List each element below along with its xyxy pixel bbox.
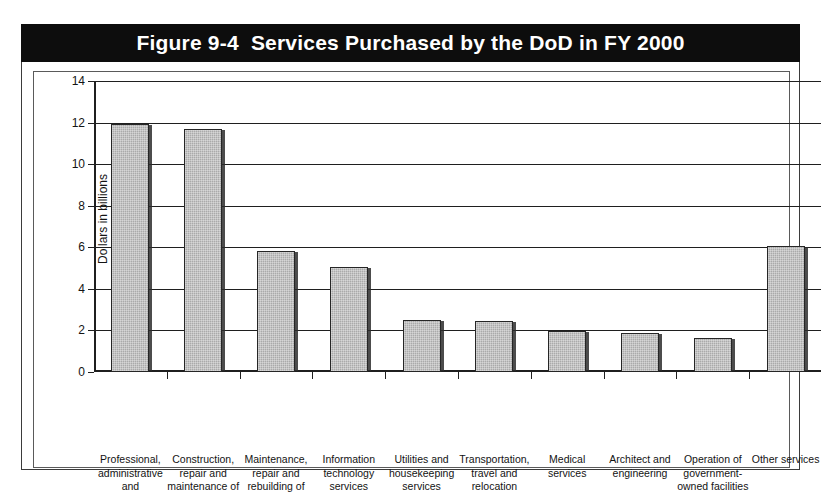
x-axis-tick [458, 372, 459, 379]
x-axis-category-label: Operation ofgovernment-owned facilities [676, 453, 749, 493]
y-axis-tick [88, 289, 94, 290]
bar [621, 333, 659, 372]
x-axis-tick [240, 372, 241, 379]
bar [330, 267, 368, 372]
category-label-line: repair and [167, 467, 240, 481]
y-axis-tick-label: 2 [78, 323, 85, 337]
gridline [94, 81, 821, 82]
x-axis-category-label: Architect andengineering [604, 453, 677, 480]
plot-panel: Dollars in billions 02468101214 Professi… [33, 71, 790, 468]
bar [475, 321, 513, 372]
category-label-line: engineering [604, 467, 677, 481]
category-label-line: owned facilities [676, 480, 749, 493]
x-axis-tick [749, 372, 750, 379]
category-label-line: housekeeping [385, 467, 458, 481]
gridline [94, 123, 821, 124]
category-label-line: rebuilding of [240, 480, 313, 493]
plot-area: 02468101214 [94, 81, 821, 372]
category-label-line: Information [312, 453, 385, 467]
bar [257, 251, 295, 372]
y-axis-tick [88, 164, 94, 165]
category-label-line: services [385, 480, 458, 493]
category-label-line: repair and [240, 467, 313, 481]
x-axis-category-label: Transportation,travel andrelocation [458, 453, 531, 493]
y-axis-line [94, 81, 96, 372]
x-axis-category-label: Informationtechnologyservices [312, 453, 385, 493]
y-axis-tick-label: 4 [78, 282, 85, 296]
category-label-line: maintenance of [167, 480, 240, 493]
category-label-line: Utilities and [385, 453, 458, 467]
category-label-line: government- [676, 467, 749, 481]
y-axis-tick [88, 372, 94, 373]
y-axis-tick [88, 81, 94, 82]
category-label-line: and [94, 480, 167, 493]
bar [694, 338, 732, 372]
y-axis-tick-label: 0 [78, 365, 85, 379]
category-label-line: services [531, 467, 604, 481]
bar [184, 129, 222, 372]
category-label-line: Professional, [94, 453, 167, 467]
category-label-line: services [312, 480, 385, 493]
x-axis-category-label: Medicalservices [531, 453, 604, 480]
x-axis-category-label: Construction,repair andmaintenance ofstr… [167, 453, 240, 493]
y-axis-tick [88, 206, 94, 207]
category-label-line: Medical [531, 453, 604, 467]
x-axis-tick [676, 372, 677, 379]
category-label-line: Architect and [604, 453, 677, 467]
x-axis-category-label: Maintenance,repair andrebuilding ofequip… [240, 453, 313, 493]
y-axis-tick-label: 12 [72, 116, 85, 130]
figure-root: Figure 9-4 Services Purchased by the DoD… [0, 0, 821, 493]
x-axis-tick [312, 372, 313, 379]
bar [548, 331, 586, 372]
category-label-line: Operation of [676, 453, 749, 467]
x-axis-tick [531, 372, 532, 379]
figure-title-band: Figure 9-4 Services Purchased by the DoD… [21, 24, 800, 62]
page-title: Figure 9-4 Services Purchased by the DoD… [136, 31, 684, 55]
x-axis-tick [385, 372, 386, 379]
category-label-line: travel and [458, 467, 531, 481]
y-axis-tick [88, 247, 94, 248]
bar [767, 246, 805, 372]
x-axis-category-labels: Professional,administrativeandmanagement… [94, 453, 821, 493]
category-label-line: administrative [94, 467, 167, 481]
category-label-line: technology [312, 467, 385, 481]
category-label-line: Construction, [167, 453, 240, 467]
x-axis-tick [167, 372, 168, 379]
y-axis-tick-label: 8 [78, 199, 85, 213]
y-axis-tick [88, 330, 94, 331]
x-axis-category-label: Professional,administrativeandmanagement… [94, 453, 167, 493]
x-axis-category-label: Utilities andhousekeepingservices [385, 453, 458, 493]
bar [111, 124, 149, 372]
bar [403, 320, 441, 372]
category-label-line: relocation [458, 480, 531, 493]
y-axis-tick-label: 10 [72, 157, 85, 171]
y-axis-tick-label: 14 [72, 74, 85, 88]
category-label-line: Transportation, [458, 453, 531, 467]
x-axis-category-label: Other services [749, 453, 821, 467]
y-axis-tick-label: 6 [78, 240, 85, 254]
category-label-line: Maintenance, [240, 453, 313, 467]
x-axis-tick [604, 372, 605, 379]
y-axis-tick [88, 123, 94, 124]
category-label-line: Other services [749, 453, 821, 467]
